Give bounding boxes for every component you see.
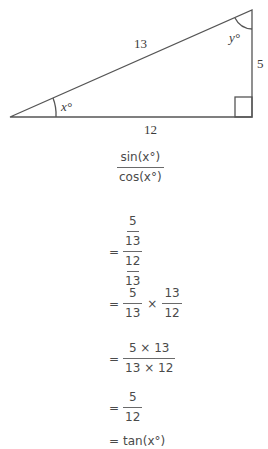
compound-fraction: 5 13 12 13 (123, 214, 142, 289)
fraction-a: 5 13 (123, 286, 142, 321)
denominator: 12 (123, 410, 142, 425)
fraction-bar (123, 358, 175, 359)
equals-sign: = (109, 245, 119, 259)
denominator: 12 (162, 306, 181, 321)
step-result: = tan(x°) (109, 434, 165, 448)
angle-y-label: y° (227, 30, 240, 45)
denominator: 13 (123, 234, 142, 249)
step-compound-fraction: = 5 13 12 13 (109, 214, 142, 289)
top-fraction: 5 13 (123, 214, 142, 249)
numerator: 5 (127, 214, 139, 229)
fraction-bar (127, 271, 139, 272)
denominator: 13 (123, 306, 142, 321)
opposite-side-label: 5 (257, 56, 264, 71)
numerator: sin(x°) (119, 150, 163, 165)
right-triangle-diagram: 13 5 12 x° y° (0, 0, 268, 140)
denominator: cos(x°) (117, 170, 164, 185)
fraction-bar (162, 303, 181, 304)
fraction-b: 13 12 (162, 286, 181, 321)
numerator: 5 (127, 390, 139, 405)
numerator: 12 (123, 254, 142, 269)
tan-result: tan(x°) (123, 434, 165, 448)
sin-over-cos-fraction: sin(x°) cos(x°) (117, 150, 164, 185)
angle-x-arc (53, 98, 56, 117)
numerator: 5 (127, 286, 139, 301)
equals-sign: = (109, 297, 119, 311)
numerator: 5 × 13 (127, 341, 172, 356)
times-operator: × (147, 297, 157, 311)
fraction-bar (127, 231, 139, 232)
fraction-bar (123, 303, 142, 304)
simplified-fraction: 5 12 (123, 390, 142, 425)
hypotenuse-label: 13 (134, 36, 147, 51)
step-ratio: sin(x°) cos(x°) (117, 150, 164, 185)
product-fraction: 5 × 13 13 × 12 (123, 341, 175, 376)
triangle-shape (10, 10, 252, 117)
equals-sign: = (109, 352, 119, 366)
angle-x-label: x° (60, 99, 72, 114)
fraction-bar (117, 167, 164, 168)
right-angle-marker (235, 97, 252, 117)
equals-sign: = (109, 434, 119, 448)
step-simplified: = 5 12 (109, 390, 142, 425)
main-fraction-bar (123, 251, 142, 252)
adjacent-side-label: 12 (144, 122, 157, 137)
fraction-bar (123, 407, 142, 408)
denominator: 13 × 12 (123, 361, 175, 376)
numerator: 13 (162, 286, 181, 301)
step-multiply-reciprocal: = 5 13 × 13 12 (109, 286, 182, 321)
step-combined-product: = 5 × 13 13 × 12 (109, 341, 175, 376)
bottom-fraction: 12 13 (123, 254, 142, 289)
angle-y-arc (235, 18, 252, 29)
equals-sign: = (109, 401, 119, 415)
